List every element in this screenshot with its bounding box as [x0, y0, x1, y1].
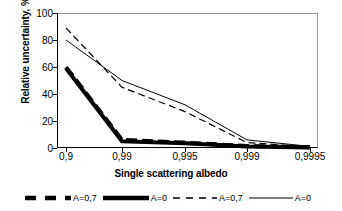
legend-label-3: A=0 [295, 194, 317, 203]
chart-legend: A=0,7 A=0 A=0,7 A=0 [0, 190, 342, 206]
x-axis-ticks: 0,9 0,99 0,995 0,999 0,9995 [0, 151, 342, 167]
x-tick-label-2: 0,995 [155, 151, 215, 162]
y-tick-label-40: 40 [23, 90, 53, 100]
x-tick-label-1: 0,99 [92, 151, 152, 162]
series-thick-dashed-A07 [66, 67, 310, 147]
legend-entry-thick-dashed: A=0,7 [25, 190, 103, 206]
legend-label-2: A=0,7 [219, 194, 249, 203]
legend-swatch-thin-solid-icon [249, 192, 293, 204]
legend-entry-thin-solid: A=0 [249, 190, 317, 206]
series-thin-solid-A0 [66, 40, 310, 146]
x-tick-label-3: 0,999 [217, 151, 277, 162]
x-tick-label-0: 0,9 [36, 151, 96, 162]
series-thick-solid-A0 [66, 68, 310, 147]
legend-swatch-thick-dashed-icon [25, 192, 71, 204]
chart-figure: Relative uncertainty, % 100 80 60 40 20 … [0, 0, 342, 211]
chart-series-layer [57, 13, 318, 148]
y-axis-ticks: 100 80 60 40 20 0 [21, 0, 53, 211]
y-tick-label-60: 60 [23, 63, 53, 73]
legend-swatch-thick-solid-icon [103, 192, 149, 204]
legend-label-1: A=0 [151, 194, 173, 203]
x-axis-title: Single scattering albedo [0, 168, 342, 179]
y-tick-label-100: 100 [23, 9, 53, 19]
legend-entry-thin-dashed: A=0,7 [173, 190, 249, 206]
series-thin-dashed-A07 [66, 28, 310, 147]
y-tick-mark-0 [53, 148, 57, 149]
y-tick-label-20: 20 [23, 117, 53, 127]
x-tick-label-4: 0,9995 [280, 151, 340, 162]
legend-swatch-thin-dashed-icon [173, 192, 217, 204]
legend-label-0: A=0,7 [73, 194, 103, 203]
y-tick-label-80: 80 [23, 36, 53, 46]
legend-entry-thick-solid: A=0 [103, 190, 173, 206]
